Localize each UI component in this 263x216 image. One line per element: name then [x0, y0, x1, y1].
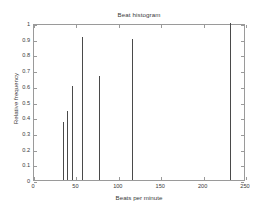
histogram-spike	[230, 23, 231, 180]
x-tick-mark	[119, 25, 120, 28]
y-axis-label: Relative frequency	[12, 49, 19, 149]
x-tick-label: 150	[145, 183, 175, 190]
histogram-spike	[99, 76, 100, 180]
x-tick-mark	[119, 177, 120, 180]
y-tick-mark	[241, 119, 244, 120]
y-tick-label: 0.9	[4, 37, 30, 43]
x-tick-label: 250	[230, 183, 260, 190]
plot-area	[33, 24, 245, 181]
y-tick-mark	[241, 151, 244, 152]
x-tick-mark	[204, 177, 205, 180]
x-tick-mark	[246, 177, 247, 180]
y-tick-mark	[34, 166, 37, 167]
y-tick-mark	[241, 72, 244, 73]
x-tick-mark	[34, 25, 35, 28]
y-tick-mark	[241, 104, 244, 105]
y-tick-mark	[34, 56, 37, 57]
y-tick-mark	[34, 135, 37, 136]
y-tick-mark	[241, 135, 244, 136]
x-tick-mark	[161, 177, 162, 180]
y-tick-mark	[34, 151, 37, 152]
x-tick-mark	[76, 25, 77, 28]
histogram-spike	[82, 37, 83, 180]
histogram-spike	[63, 122, 64, 180]
chart-title: Beat histogram	[33, 11, 245, 18]
x-tick-mark	[76, 177, 77, 180]
x-tick-label: 100	[103, 183, 133, 190]
x-tick-mark	[246, 25, 247, 28]
histogram-spike	[132, 39, 133, 180]
y-tick-label: 1	[4, 21, 30, 27]
plot-inner	[34, 25, 244, 180]
histogram-spike	[72, 86, 73, 180]
y-tick-mark	[34, 104, 37, 105]
beat-histogram-figure: Beat histogram 00.10.20.30.40.50.60.70.8…	[0, 0, 263, 216]
x-tick-label: 200	[188, 183, 218, 190]
y-tick-mark	[241, 41, 244, 42]
y-tick-mark	[241, 56, 244, 57]
y-tick-mark	[34, 88, 37, 89]
x-tick-label: 0	[18, 183, 48, 190]
y-tick-mark	[34, 119, 37, 120]
x-tick-mark	[204, 25, 205, 28]
x-tick-label: 50	[60, 183, 90, 190]
y-tick-mark	[34, 72, 37, 73]
x-tick-mark	[161, 25, 162, 28]
x-axis-label: Beats per minute	[33, 194, 245, 201]
histogram-spike	[67, 111, 68, 180]
y-tick-label: 0.1	[4, 162, 30, 168]
y-tick-mark	[241, 166, 244, 167]
x-axis-tick-labels: 050100150200250	[33, 183, 245, 192]
x-tick-mark	[34, 177, 35, 180]
y-tick-mark	[241, 88, 244, 89]
y-tick-mark	[34, 41, 37, 42]
y-tick-mark	[241, 25, 244, 26]
